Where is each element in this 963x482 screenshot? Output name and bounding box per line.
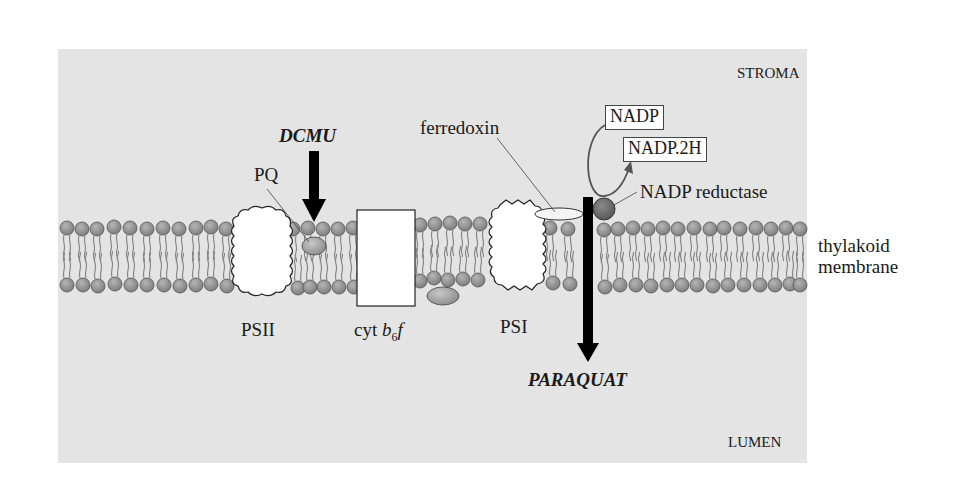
nadp-reductase-molecule [593, 198, 615, 220]
membrane-label: membrane [818, 257, 898, 276]
plastocyanin-molecule [427, 287, 459, 305]
cyt-b6f-complex [357, 210, 415, 306]
cyt-prefix: cyt [354, 319, 382, 340]
lipid-bilayer-top [60, 216, 807, 263]
dcmu-arrowhead-icon [302, 199, 326, 222]
paraquat-label: PARAQUAT [528, 370, 627, 389]
psii-label: PSII [241, 320, 275, 339]
ferredoxin-molecule [535, 208, 583, 220]
paraquat-arrow-shaft [583, 197, 593, 345]
nadph-box: NADP.2H [623, 137, 707, 162]
cyt-f: f [397, 319, 402, 340]
stroma-label: STROMA [737, 66, 800, 81]
ferredoxin-label: ferredoxin [420, 118, 499, 137]
psi-label: PSI [500, 317, 527, 336]
pq-label: PQ [254, 165, 278, 184]
nadp-reductase-leader-line [614, 192, 637, 205]
lumen-label: LUMEN [728, 435, 781, 450]
dcmu-label: DCMU [279, 126, 336, 145]
lipid-bilayer-bottom [60, 245, 807, 295]
thylakoid-label: thylakoid [818, 236, 890, 255]
paraquat-arrowhead-icon [577, 343, 599, 362]
cyt-b6f-label: cyt b6f [354, 320, 403, 343]
nadp-box: NADP [605, 105, 664, 130]
nadp-reductase-label: NADP reductase [640, 182, 768, 201]
pq-molecule [302, 237, 326, 255]
dcmu-arrow-shaft [309, 151, 319, 201]
psii-complex [232, 206, 293, 295]
